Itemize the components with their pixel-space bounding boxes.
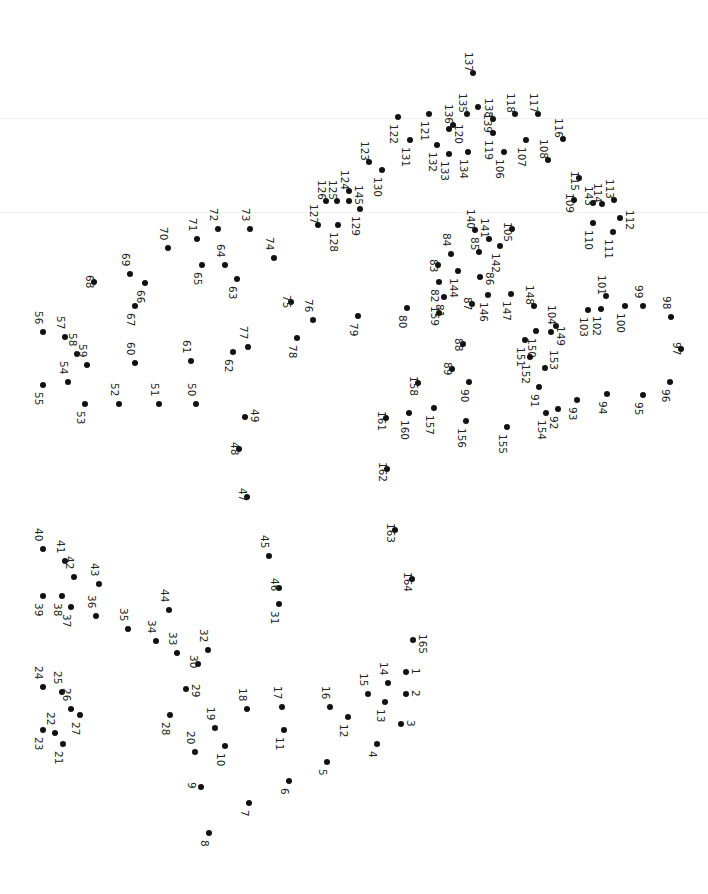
- dot-label: 104: [547, 305, 558, 325]
- dot-label: 116: [554, 118, 565, 138]
- dot-label: 95: [634, 402, 645, 415]
- dot-label: 103: [579, 317, 590, 337]
- dot-130: [379, 167, 385, 173]
- dot-label: 44: [160, 589, 171, 602]
- dot-label: 96: [661, 389, 672, 402]
- dot-label: 48: [230, 442, 241, 455]
- dot-151: [522, 337, 528, 343]
- dot-label: 133: [440, 161, 451, 181]
- dot-66: [142, 280, 148, 286]
- dot-label: 61: [182, 340, 193, 353]
- dot-142: [497, 243, 503, 249]
- dot-100: [622, 303, 628, 309]
- dot-146: [485, 292, 491, 298]
- dot-label: 128: [329, 232, 340, 252]
- dot-150: [533, 328, 539, 334]
- dot-label: 43: [90, 563, 101, 576]
- dot-label: 66: [136, 290, 147, 303]
- dot-label: 71: [188, 218, 199, 231]
- dot-label: 123: [360, 141, 371, 161]
- dot-84: [448, 251, 454, 257]
- dot-152: [527, 354, 533, 360]
- dot-label: 91: [530, 394, 541, 407]
- dot-18: [244, 706, 250, 712]
- dot-36: [93, 613, 99, 619]
- dot-4: [374, 741, 380, 747]
- dot-129: [357, 206, 363, 212]
- dot-label: 36: [87, 595, 98, 608]
- dot-label: 136: [444, 104, 455, 124]
- dot-15: [365, 691, 371, 697]
- dot-label: 75: [282, 295, 293, 308]
- dot-label: 28: [161, 722, 172, 735]
- dot-106: [501, 149, 507, 155]
- dot-label: 6: [280, 788, 291, 795]
- dot-label: 131: [401, 147, 412, 167]
- dot-label: 158: [409, 376, 420, 396]
- dot-label: 122: [389, 124, 400, 144]
- dot-label: 153: [549, 350, 560, 370]
- dot-17: [279, 704, 285, 710]
- dot-label: 12: [339, 724, 350, 737]
- dot-label: 99: [634, 285, 645, 298]
- dot-label: 82: [430, 289, 441, 302]
- dot-label: 125: [328, 180, 339, 200]
- dot-label: 69: [121, 253, 132, 266]
- dot-label: 50: [187, 383, 198, 396]
- dot-28: [167, 712, 173, 718]
- dot-35: [125, 626, 131, 632]
- dot-label: 84: [442, 233, 453, 246]
- dot-154: [543, 410, 549, 416]
- dot-label: 65: [193, 272, 204, 285]
- dot-label: 9: [187, 782, 198, 789]
- dot-label: 14: [379, 662, 390, 675]
- dot-label: 17: [273, 686, 284, 699]
- connect-the-dots-sheet: 1234567891011121314151617181920212223242…: [0, 0, 708, 894]
- dot-label: 111: [604, 239, 615, 259]
- dot-134: [465, 149, 471, 155]
- dot-1: [403, 669, 409, 675]
- dot-label: 107: [517, 147, 528, 167]
- dot-label: 42: [65, 556, 76, 569]
- dot-34: [153, 638, 159, 644]
- dot-label: 47: [238, 488, 249, 501]
- dot-label: 33: [168, 632, 179, 645]
- dot-label: 118: [506, 93, 517, 113]
- dot-label: 139: [483, 113, 494, 133]
- dot-label: 80: [398, 315, 409, 328]
- dot-label: 145: [354, 185, 365, 205]
- dot-label: 29: [191, 684, 202, 697]
- dot-label: 157: [425, 415, 436, 435]
- dot-56: [40, 329, 46, 335]
- dot-80: [404, 305, 410, 311]
- dot-131: [407, 137, 413, 143]
- dot-label: 165: [418, 634, 429, 654]
- dot-27: [77, 712, 83, 718]
- dot-label: 34: [147, 620, 158, 633]
- dot-label: 49: [250, 409, 261, 422]
- dot-label: 24: [34, 666, 45, 679]
- dot-label: 87: [463, 297, 474, 310]
- dot-label: 38: [53, 603, 64, 616]
- dot-label: 137: [464, 52, 475, 72]
- dot-90: [466, 379, 472, 385]
- dot-label: 46: [270, 578, 281, 591]
- dot-69: [127, 271, 133, 277]
- dot-149: [548, 329, 554, 335]
- dot-43: [96, 581, 102, 587]
- dot-label: 15: [359, 673, 370, 686]
- dot-label: 109: [565, 193, 576, 213]
- dot-32: [205, 647, 211, 653]
- dot-95: [640, 392, 646, 398]
- dot-label: 141: [480, 218, 491, 238]
- dot-label: 124: [340, 170, 351, 190]
- dot-label: 77: [239, 326, 250, 339]
- dot-label: 161: [377, 411, 388, 431]
- dot-label: 5: [318, 769, 329, 776]
- dot-3: [398, 721, 404, 727]
- dot-label: 115: [570, 171, 581, 191]
- dot-label: 52: [110, 383, 121, 396]
- dot-93: [574, 397, 580, 403]
- dot-label: 83: [429, 259, 440, 272]
- dot-61: [188, 358, 194, 364]
